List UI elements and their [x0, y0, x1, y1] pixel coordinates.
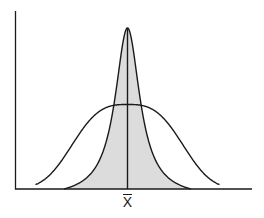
distribution-diagram: [0, 0, 264, 218]
mean-label: X: [118, 195, 138, 209]
